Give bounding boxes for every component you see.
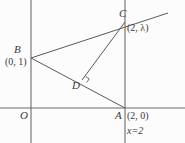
point-label-C: C: [119, 8, 126, 19]
point-label-D: D: [72, 80, 80, 91]
origin-label: O: [20, 110, 28, 121]
point-label-B: B: [14, 44, 21, 55]
line-equation-label: x=2: [127, 126, 143, 136]
geometry-figure: B (0, 1) C (2, λ) A (2, 0) x=2 O D: [0, 0, 185, 143]
figure-canvas: [0, 0, 185, 143]
point-coords-C: (2, λ): [127, 23, 149, 33]
right-angle-mark-at-D: [86, 77, 90, 83]
point-label-A: A: [115, 110, 122, 121]
segment-CD: [82, 22, 125, 80]
point-coords-A: (2, 0): [127, 111, 149, 121]
segment-BC: [31, 13, 168, 58]
point-coords-B: (0, 1): [5, 57, 27, 67]
